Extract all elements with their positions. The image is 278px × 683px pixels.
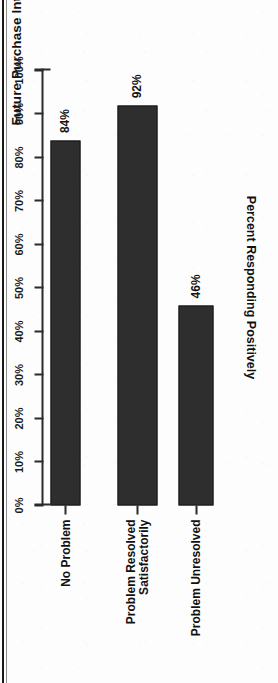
category-label: Problem Resolved Satisfactorily	[124, 519, 150, 669]
value-tick	[34, 330, 43, 332]
value-tick-label: 70%	[12, 189, 24, 211]
value-tick	[34, 156, 43, 158]
value-tick-label: 50%	[12, 276, 24, 298]
value-tick	[34, 287, 43, 289]
bar-value-label: 84%	[57, 109, 71, 133]
value-tick	[34, 461, 43, 463]
value-axis-title: Percent Responding Positively	[243, 196, 257, 379]
value-tick-label: 0%	[12, 497, 24, 513]
value-tick	[34, 113, 43, 115]
bar	[50, 140, 80, 505]
category-label: No Problem	[59, 519, 72, 669]
bar-value-label: 46%	[188, 274, 202, 298]
value-tick	[34, 200, 43, 202]
category-tick	[195, 505, 197, 514]
value-tick-label: 60%	[12, 233, 24, 255]
value-tick-label: 40%	[12, 320, 24, 342]
bar-value-label: 92%	[129, 74, 143, 98]
value-tick	[34, 374, 43, 376]
chart-canvas: Future Purchase Intent 0%10%20%30%40%50%…	[0, 0, 278, 683]
value-tick-label: 100%	[12, 56, 24, 84]
value-tick	[34, 243, 43, 245]
category-tick	[64, 505, 66, 514]
value-tick-label: 20%	[12, 407, 24, 429]
value-tick-label: 80%	[12, 146, 24, 168]
value-tick	[34, 69, 43, 71]
value-tick	[34, 504, 43, 506]
value-tick-label: 10%	[12, 450, 24, 472]
value-tick-label: 30%	[12, 363, 24, 385]
value-tick	[34, 417, 43, 419]
value-tick-label: 90%	[12, 102, 24, 124]
bar	[178, 305, 213, 505]
category-label: Problem Unresolved	[189, 519, 202, 669]
category-tick	[136, 505, 138, 514]
bar	[117, 105, 157, 505]
